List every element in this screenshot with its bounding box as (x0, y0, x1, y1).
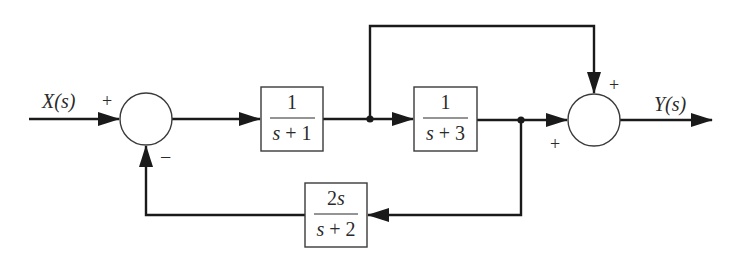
feedforward-path (370, 26, 594, 119)
sum2-left-plus-sign: + (550, 134, 560, 154)
summing-junction-2 (568, 94, 620, 146)
sum1-plus-sign: + (102, 91, 112, 111)
output-label: Y(s) (654, 93, 687, 116)
block-2: 1 s + 3 (414, 87, 477, 151)
block-diagram: 1 s + 1 1 s + 3 2s s + 2 X(s) Y(s) + − +… (0, 0, 738, 264)
junction-dot-1 (366, 115, 373, 122)
block1-denominator: s + 1 (272, 122, 311, 144)
input-label: X(s) (41, 90, 76, 113)
block1-numerator: 1 (287, 91, 297, 113)
sum1-minus-sign: − (160, 146, 171, 168)
block2-denominator: s + 3 (426, 122, 465, 144)
feedback-numerator: 2s (327, 187, 345, 209)
feedback-block: 2s s + 2 (305, 183, 367, 247)
junction-dot-2 (517, 116, 524, 123)
block2-numerator: 1 (441, 91, 451, 113)
sum2-top-plus-sign: + (609, 75, 619, 95)
block-1: 1 s + 1 (261, 87, 323, 151)
summing-junction-1 (120, 93, 172, 145)
feedback-denominator: s + 2 (316, 218, 355, 240)
